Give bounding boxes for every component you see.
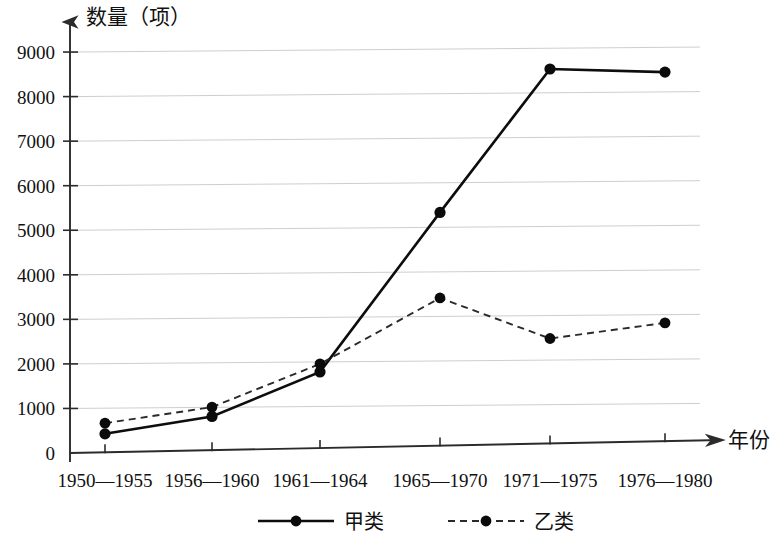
x-axis-title: 年份 — [728, 428, 770, 452]
x-tick-label: 1976—1980 — [618, 470, 713, 491]
gridline — [72, 403, 700, 408]
data-point-marker — [545, 333, 556, 344]
gridline — [72, 181, 700, 186]
y-tick-label: 2000 — [17, 354, 55, 375]
y-tick-label: 8000 — [17, 87, 55, 108]
data-point-marker — [660, 318, 671, 329]
x-tick-label: 1961—1964 — [273, 470, 369, 491]
x-tick-label: 1956—1960 — [165, 470, 260, 491]
line-chart: 0100020003000400050006000700080009000 19… — [0, 0, 776, 545]
y-tick-label: 4000 — [17, 265, 55, 286]
x-tick-label: 1950—1955 — [58, 470, 153, 491]
x-tick-label: 1965—1970 — [393, 470, 488, 491]
gridline — [72, 92, 700, 97]
data-point-marker — [544, 63, 555, 74]
legend-label-1: 甲类 — [344, 511, 384, 533]
gridline — [72, 270, 700, 275]
x-axis-line — [70, 440, 722, 453]
series-line-1 — [105, 69, 665, 434]
data-point-marker — [99, 428, 110, 439]
x-tick-labels: 1950—19551956—19601961—19641965—19701971… — [58, 470, 713, 491]
y-tick-label: 9000 — [17, 42, 55, 63]
gridline — [72, 225, 700, 230]
gridline — [72, 314, 700, 319]
data-point-marker — [207, 402, 218, 413]
y-tick-label: 5000 — [17, 220, 55, 241]
gridline — [72, 136, 700, 141]
x-tick-label: 1971—1975 — [503, 470, 598, 491]
data-point-marker — [100, 418, 111, 429]
y-tick-label: 1000 — [17, 398, 55, 419]
gridlines — [72, 47, 700, 408]
data-point-marker — [659, 66, 670, 77]
y-tick-labels: 0100020003000400050006000700080009000 — [17, 42, 55, 464]
chart-canvas: 0100020003000400050006000700080009000 19… — [0, 0, 776, 545]
y-axis-title: 数量（项） — [86, 5, 191, 29]
chart-legend: 甲类乙类 — [258, 511, 574, 533]
data-point-marker — [315, 359, 326, 370]
data-point-marker — [206, 411, 217, 422]
legend-marker-1 — [291, 516, 302, 527]
legend-marker-2 — [481, 516, 492, 527]
gridline — [72, 359, 700, 364]
data-point-marker — [434, 207, 445, 218]
gridline — [72, 47, 700, 52]
y-tick-label: 0 — [46, 443, 56, 464]
y-tick-label: 3000 — [17, 309, 55, 330]
legend-label-2: 乙类 — [534, 511, 574, 533]
data-point-marker — [435, 293, 446, 304]
series-layer — [99, 63, 670, 439]
y-tick-label: 7000 — [17, 131, 55, 152]
y-tick-label: 6000 — [17, 176, 55, 197]
